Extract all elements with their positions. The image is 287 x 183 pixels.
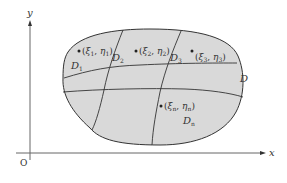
y-axis-arrow-icon (28, 20, 32, 26)
point-3-marker (191, 50, 194, 53)
partition-diagram: y x O (ξ1, η1) (ξ2, η2) (ξ3, η3) (ξn, ηn… (0, 0, 287, 183)
point-2-marker (135, 50, 138, 53)
y-axis-label: y (26, 7, 33, 18)
region-d-label: D (239, 73, 248, 84)
x-axis-label: x (269, 147, 275, 158)
origin-label: O (20, 158, 27, 168)
x-axis-arrow-icon (260, 151, 266, 155)
point-n-marker (160, 105, 163, 108)
point-1-marker (78, 50, 81, 53)
